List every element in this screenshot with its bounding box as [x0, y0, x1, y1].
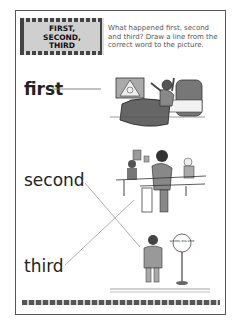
decorative-checker-strip	[22, 300, 220, 305]
illustrations: SCHOOL BUS STOP	[0, 0, 236, 330]
bus-stop-picture-icon: SCHOOL BUS STOP	[144, 234, 195, 285]
bed-picture-icon	[110, 78, 205, 126]
second-answer-line	[85, 183, 140, 247]
third-answer-line	[65, 200, 134, 265]
bus-stop-sign-text: SCHOOL BUS STOP	[170, 240, 195, 243]
classroom-picture-icon	[116, 150, 206, 212]
